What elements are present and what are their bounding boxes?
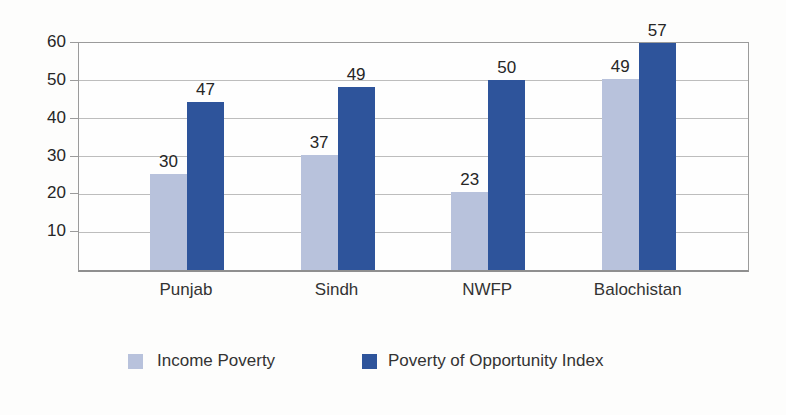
value-label-sindh-income-poverty: 37 bbox=[297, 133, 341, 153]
income-poverty-swatch-icon bbox=[128, 354, 143, 369]
bar-balochistan-income-poverty bbox=[602, 79, 639, 270]
y-tick-mark-30 bbox=[70, 156, 78, 157]
y-tick-label-20: 20 bbox=[18, 183, 66, 203]
category-label-balochistan: Balochistan bbox=[568, 280, 708, 300]
bar-punjab-income-poverty bbox=[150, 174, 187, 270]
value-label-punjab-income-poverty: 30 bbox=[147, 152, 191, 172]
bar-sindh-opportunity-index bbox=[338, 87, 375, 270]
legend-label: Poverty of Opportunity Index bbox=[388, 351, 603, 371]
value-label-sindh-opportunity-index: 49 bbox=[334, 65, 378, 85]
y-tick-mark-40 bbox=[70, 118, 78, 119]
value-label-nwfp-income-poverty: 23 bbox=[448, 170, 492, 190]
y-tick-label-60: 60 bbox=[18, 32, 66, 52]
y-tick-label-40: 40 bbox=[18, 108, 66, 128]
value-label-nwfp-opportunity-index: 50 bbox=[485, 58, 529, 78]
legend-item-poverty-opportunity-index: Poverty of Opportunity Index bbox=[362, 351, 603, 371]
y-tick-mark-60 bbox=[70, 42, 78, 43]
y-tick-mark-20 bbox=[70, 193, 78, 194]
y-tick-mark-50 bbox=[70, 80, 78, 81]
plot-area: 3047374923504957 bbox=[78, 42, 749, 272]
bar-chart-figure: 102030405060 3047374923504957 PunjabSind… bbox=[0, 0, 786, 415]
y-tick-label-10: 10 bbox=[18, 221, 66, 241]
bar-balochistan-opportunity-index bbox=[639, 43, 676, 270]
category-label-nwfp: NWFP bbox=[417, 280, 557, 300]
category-label-sindh: Sindh bbox=[267, 280, 407, 300]
value-label-balochistan-opportunity-index: 57 bbox=[635, 21, 679, 41]
poverty-opportunity-swatch-icon bbox=[362, 354, 377, 369]
y-tick-mark-10 bbox=[70, 231, 78, 232]
value-label-balochistan-income-poverty: 49 bbox=[598, 57, 642, 77]
bar-nwfp-income-poverty bbox=[451, 192, 488, 270]
y-tick-label-50: 50 bbox=[18, 70, 66, 90]
bar-punjab-opportunity-index bbox=[187, 102, 224, 270]
bar-sindh-income-poverty bbox=[301, 155, 338, 270]
legend-item-income-poverty: Income Poverty bbox=[128, 351, 275, 371]
legend: Income Poverty Poverty of Opportunity In… bbox=[0, 351, 786, 371]
legend-label: Income Poverty bbox=[157, 351, 275, 371]
value-label-punjab-opportunity-index: 47 bbox=[184, 80, 228, 100]
bar-nwfp-opportunity-index bbox=[488, 80, 525, 270]
category-label-punjab: Punjab bbox=[116, 280, 256, 300]
y-tick-label-30: 30 bbox=[18, 146, 66, 166]
